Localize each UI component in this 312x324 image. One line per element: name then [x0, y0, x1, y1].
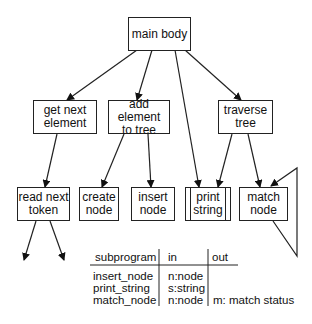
node-main-body: main body — [128, 17, 191, 51]
edge-main-to-print-string — [175, 50, 199, 187]
edge-add-element-to-insert-node — [148, 134, 151, 187]
edge-main-to-add-element — [137, 50, 152, 100]
node-read-next-token: read next token — [17, 187, 70, 221]
table-cell: n:node — [168, 294, 203, 306]
table-header-out: out — [212, 251, 228, 263]
edge-traverse-to-match-node — [248, 134, 260, 187]
table-header-subprogram: subprogram — [95, 251, 156, 263]
node-traverse-tree: traverse tree — [218, 100, 273, 134]
table-header-in: in — [168, 251, 177, 263]
table-cell: n:node — [168, 270, 203, 282]
edge-add-element-to-create-node — [102, 134, 124, 187]
library-bar-right — [225, 188, 226, 220]
table-cell: insert_node — [93, 270, 153, 282]
edge-read-token-out-right — [50, 221, 64, 260]
node-add-element-to-tree: add element to tree — [108, 100, 170, 134]
edge-get-next-to-read-token — [45, 134, 57, 187]
library-bar-left — [190, 188, 191, 220]
node-print-string: print string — [185, 187, 231, 221]
table-cell: match_node — [93, 294, 156, 306]
edge-main-to-get-next — [67, 50, 137, 100]
node-insert-node: insert node — [131, 187, 175, 221]
edge-traverse-to-print-string — [218, 134, 232, 187]
table-cell: m: match status — [213, 294, 294, 306]
edge-read-token-out-left — [24, 221, 36, 260]
table-cell: print_string — [93, 282, 150, 294]
node-create-node: create node — [79, 187, 119, 221]
node-get-next-element: get next element — [33, 100, 97, 134]
edge-main-to-traverse — [185, 50, 241, 100]
table-cell: s:string — [168, 282, 205, 294]
node-match-node: match node — [239, 187, 288, 221]
node-print-string-label: print string — [193, 191, 222, 217]
